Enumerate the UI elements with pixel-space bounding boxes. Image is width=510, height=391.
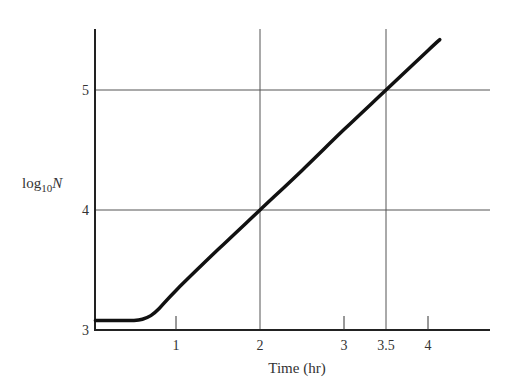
x-tick-label: 3.5 — [377, 338, 395, 353]
x-tick-label: 3 — [341, 338, 348, 353]
y-tick-label: 4 — [82, 203, 89, 218]
y-axis-label: log10N — [22, 175, 63, 194]
y-tick-label: 5 — [82, 83, 89, 98]
x-tick-label: 2 — [257, 338, 264, 353]
x-tick-label: 1 — [173, 338, 180, 353]
y-ticks: 345 — [82, 83, 89, 338]
growth-curve-line — [95, 40, 439, 321]
y-tick-label: 3 — [82, 323, 89, 338]
x-tick-label: 4 — [425, 338, 432, 353]
y-axis-label-subscript: 10 — [41, 182, 53, 194]
x-axis-label: Time (hr) — [268, 360, 325, 377]
x-ticks: 1233.54 — [173, 316, 432, 353]
y-axis-label-variable: N — [51, 175, 63, 191]
growth-chart: 1233.54 345 Time (hr) log10N — [0, 0, 510, 391]
y-axis-label-base: log — [22, 175, 42, 191]
